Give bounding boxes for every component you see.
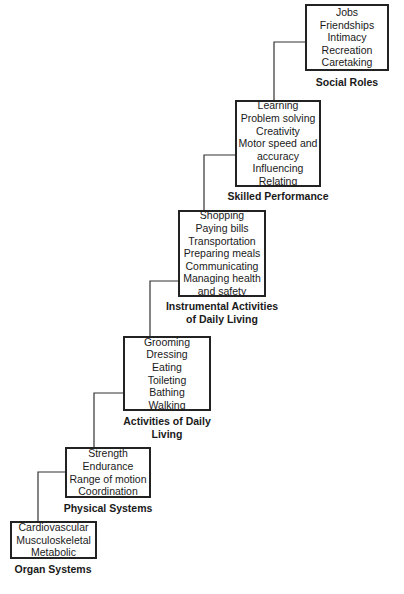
box-item: Dressing bbox=[146, 348, 187, 361]
physical-systems-label: Physical Systems bbox=[60, 502, 156, 515]
adl-label-line: Living bbox=[112, 428, 222, 441]
iadl-label-line: of Daily Living bbox=[162, 313, 282, 326]
box-item: Musculoskeletal bbox=[16, 534, 91, 547]
box-item: Influencing bbox=[253, 162, 304, 175]
box-item: Caretaking bbox=[322, 56, 373, 69]
box-item: Friendships bbox=[320, 19, 374, 32]
box-item: and safety bbox=[198, 285, 246, 298]
adl-box: Grooming Dressing Eating Toileting Bathi… bbox=[123, 336, 211, 411]
iadl-label: Instrumental Activities of Daily Living bbox=[162, 300, 282, 325]
box-item: Learning bbox=[258, 99, 299, 112]
box-item: Range of motion bbox=[69, 473, 146, 486]
iadl-box: Shopping Paying bills Transportation Pre… bbox=[178, 210, 266, 297]
connector-skilled-social bbox=[274, 42, 305, 100]
box-item: Recreation bbox=[322, 44, 373, 57]
box-item: Jobs bbox=[336, 6, 358, 19]
box-item: Metabolic bbox=[31, 546, 76, 559]
box-item: Toileting bbox=[148, 374, 187, 387]
box-item: Shopping bbox=[200, 209, 244, 222]
iadl-label-line: Instrumental Activities bbox=[162, 300, 282, 313]
box-item: Motor speed and bbox=[239, 137, 318, 150]
box-item: Strength bbox=[88, 447, 128, 460]
physical-systems-box: Strength Endurance Range of motion Coord… bbox=[65, 447, 151, 498]
box-item: Creativity bbox=[256, 125, 300, 138]
skilled-performance-label: Skilled Performance bbox=[225, 190, 331, 203]
box-item: accuracy bbox=[257, 150, 299, 163]
box-item: Endurance bbox=[83, 460, 134, 473]
social-roles-label: Social Roles bbox=[305, 76, 389, 89]
organ-systems-box: Cardiovascular Musculoskeletal Metabolic bbox=[10, 521, 97, 559]
box-item: Intimacy bbox=[327, 31, 366, 44]
organ-systems-label: Organ Systems bbox=[5, 563, 101, 576]
box-item: Paying bills bbox=[195, 222, 248, 235]
box-item: Walking bbox=[149, 399, 186, 412]
box-item: Managing health bbox=[183, 272, 261, 285]
box-item: Problem solving bbox=[241, 112, 316, 125]
box-item: Bathing bbox=[149, 386, 185, 399]
adl-label: Activities of Daily Living bbox=[112, 415, 222, 440]
box-item: Preparing meals bbox=[184, 247, 260, 260]
box-item: Cardiovascular bbox=[18, 521, 88, 534]
social-roles-box: Jobs Friendships Intimacy Recreation Car… bbox=[305, 4, 389, 71]
box-item: Transportation bbox=[188, 235, 255, 248]
adl-label-line: Activities of Daily bbox=[112, 415, 222, 428]
box-item: Communicating bbox=[186, 260, 259, 273]
skilled-performance-box: Learning Problem solving Creativity Moto… bbox=[235, 100, 321, 187]
box-item: Grooming bbox=[144, 336, 190, 349]
box-item: Eating bbox=[152, 361, 182, 374]
box-item: Coordination bbox=[78, 485, 138, 498]
box-item: Relating bbox=[259, 175, 298, 188]
